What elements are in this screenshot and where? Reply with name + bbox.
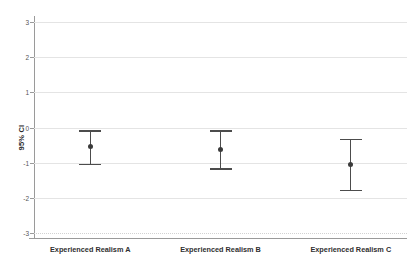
error-bar-cap-lower [79, 164, 101, 165]
x-category-label: Experienced Realism B [180, 245, 261, 254]
gridline [34, 198, 407, 199]
x-category-label: Experienced Realism A [50, 245, 130, 254]
error-bar-cap-upper [340, 139, 362, 140]
error-bar-cap-upper [210, 130, 232, 131]
y-tick-label: -2 [23, 194, 29, 201]
gridline [34, 128, 407, 129]
y-tick-label: 3 [25, 19, 29, 26]
y-tick-label: 2 [25, 54, 29, 61]
y-axis-title: 95% CI [14, 0, 28, 265]
y-tick-mark [30, 92, 34, 93]
x-category-label: Experienced Realism C [310, 245, 391, 254]
gridline [34, 22, 407, 23]
error-bar-cap-lower [340, 190, 362, 191]
mean-marker [348, 162, 353, 167]
y-tick-label: 0 [25, 124, 29, 131]
y-tick-label: -1 [23, 159, 29, 166]
chart-screenshot: 95% CI 3210-1-2-3 Experienced Realism AE… [0, 0, 415, 265]
gridline [34, 92, 407, 93]
y-tick-mark [30, 233, 34, 234]
x-axis-spine [29, 238, 407, 239]
error-bar-cap-upper [79, 130, 101, 131]
y-tick-mark [30, 128, 34, 129]
y-tick-mark [30, 198, 34, 199]
mean-marker [218, 147, 223, 152]
y-tick-mark [30, 22, 34, 23]
mean-marker [88, 144, 93, 149]
gridline [34, 57, 407, 58]
error-bar-cap-lower [210, 168, 232, 169]
plot-area: 3210-1-2-3 [34, 22, 407, 233]
y-tick-label: -3 [23, 230, 29, 237]
y-tick-mark [30, 57, 34, 58]
y-axis-title-label: 95% CI [17, 125, 26, 151]
gridline [34, 233, 407, 234]
y-tick-label: 1 [25, 89, 29, 96]
y-tick-mark [30, 163, 34, 164]
